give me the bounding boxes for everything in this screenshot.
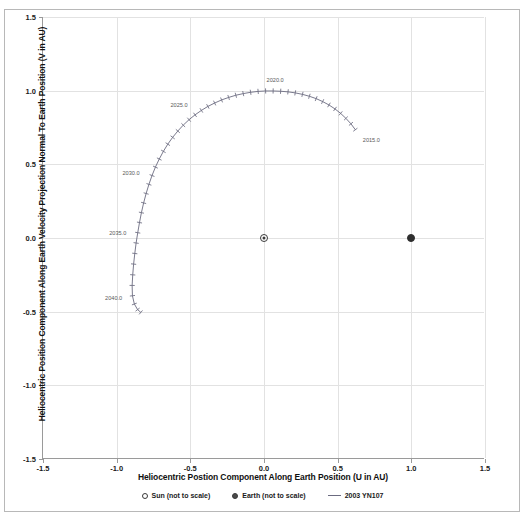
y-tick (39, 459, 43, 460)
gridline-horizontal (43, 312, 484, 313)
epoch-year-label: 2035.0 (109, 230, 126, 236)
legend-item: Earth (not to scale) (232, 492, 305, 499)
x-tick (190, 459, 191, 463)
y-tick-label: -1.5 (23, 455, 36, 464)
x-tick (117, 459, 118, 463)
x-axis-title: Heliocentric Postion Component Along Ear… (42, 472, 484, 482)
y-tick-label: 1.5 (26, 13, 36, 22)
earth-legend-icon (232, 493, 238, 499)
legend-item: 2003 YN107 (328, 492, 384, 499)
plot-area: 2015.02020.02025.02030.02035.02040.0 -1.… (42, 17, 484, 459)
y-tick-label: -0.5 (23, 307, 36, 316)
x-tick (264, 459, 265, 463)
legend-label: 2003 YN107 (345, 492, 384, 499)
sun-legend-icon (142, 493, 148, 499)
epoch-year-label: 2040.0 (105, 295, 122, 301)
earth-marker (260, 234, 268, 242)
y-tick-label: 0.5 (26, 160, 36, 169)
epoch-year-label: 2030.0 (122, 170, 139, 176)
y-tick-label: 0.0 (26, 234, 36, 243)
gridline-horizontal (43, 164, 484, 165)
epoch-year-label: 2020.0 (267, 77, 284, 83)
x-tick (43, 459, 44, 463)
gridline-vertical (485, 17, 486, 458)
figure-container: 2015.02020.02025.02030.02035.02040.0 -1.… (0, 0, 525, 517)
sun-marker (407, 234, 415, 242)
epoch-year-label: 2015.0 (363, 137, 380, 143)
y-tick-label: -1.0 (23, 381, 36, 390)
gridline-horizontal (43, 17, 484, 18)
legend-item: Sun (not to scale) (142, 492, 211, 499)
x-tick (338, 459, 339, 463)
legend-label: Earth (not to scale) (242, 492, 305, 499)
gridline-horizontal (43, 385, 484, 386)
x-tick (485, 459, 486, 463)
x-tick (411, 459, 412, 463)
chart-legend: Sun (not to scale)Earth (not to scale)20… (0, 492, 525, 499)
epoch-year-label: 2025.0 (170, 102, 187, 108)
legend-label: Sun (not to scale) (152, 492, 211, 499)
top-clipped-text (0, 0, 525, 8)
y-tick-label: 1.0 (26, 86, 36, 95)
line-legend-icon (328, 495, 341, 496)
y-axis-title: Heliocentric Position Component Along Ea… (37, 4, 47, 444)
gridline-horizontal (43, 91, 484, 92)
